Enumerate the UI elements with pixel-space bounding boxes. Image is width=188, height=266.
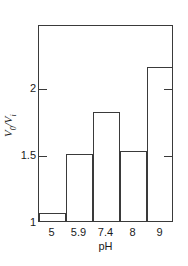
bar-chart-figure: V0/Vi 11.52 55.97.489 pH (0, 0, 188, 266)
y-axis-tick-mark (164, 89, 172, 90)
bar (93, 112, 120, 221)
x-axis-tick-label: 7.4 (98, 226, 113, 238)
y-axis-tick-mark (39, 156, 47, 157)
x-axis-tick-labels: 55.97.489 (38, 226, 173, 240)
bars-layer (39, 26, 172, 221)
y-axis-label-numerator: V0 (2, 126, 14, 137)
y-axis-tick-label: 1.5 (21, 149, 36, 160)
bar (147, 67, 172, 221)
x-axis-tick-label: 9 (156, 226, 162, 238)
y-axis-tick-label: 1 (30, 217, 36, 228)
bar (66, 154, 93, 221)
x-axis-tick-label: 5.9 (71, 226, 86, 238)
y-axis-tick-label: 2 (30, 82, 36, 93)
x-axis-label: pH (38, 240, 173, 252)
x-axis-tick-label: 5 (48, 226, 54, 238)
x-axis-tick-label: 8 (129, 226, 135, 238)
plot-area (38, 25, 173, 222)
y-axis-label-separator: / (2, 123, 14, 126)
y-axis-label-denominator: Vi (2, 114, 14, 123)
y-axis-label-numerator-subscript: 0 (9, 126, 18, 130)
y-axis-tick-labels: 11.52 (18, 25, 36, 222)
y-axis-label: V0/Vi (2, 100, 17, 152)
y-axis-tick-mark (164, 156, 172, 157)
bar (120, 151, 147, 221)
y-axis-label-denominator-subscript: i (9, 114, 18, 116)
bar (39, 213, 66, 221)
y-axis-tick-mark (39, 89, 47, 90)
